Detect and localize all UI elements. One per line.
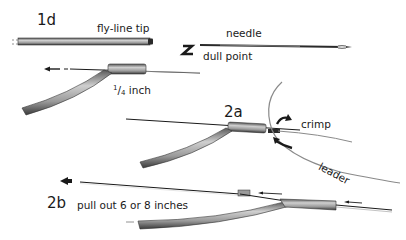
step-1d-label: 1d (37, 13, 56, 28)
fly-line-tip-label: fly-line tip (97, 23, 149, 34)
fly-line-splice-diagram: 1d fly-line tip needle dull point 1/4 in… (0, 0, 406, 240)
dull-point-label: dull point (203, 51, 252, 62)
left-arrow-icon (60, 177, 72, 185)
quarter-inch-label: 1/4 inch (113, 85, 151, 97)
step-2a-label: 2a (224, 105, 243, 120)
needle-label: needle (226, 28, 262, 39)
crimp-assembly-icon (126, 119, 300, 168)
pull-out-label: pull out 6 or 8 inches (77, 200, 188, 211)
crimp-label: crimp (301, 119, 331, 130)
needle-icon (200, 44, 352, 48)
needle-inserted-icon (22, 64, 200, 115)
step-2b-label: 2b (47, 196, 66, 211)
fly-line-icon (12, 38, 153, 45)
left-arrow-icon (44, 67, 68, 72)
reverse-arrow-icon (183, 46, 193, 54)
